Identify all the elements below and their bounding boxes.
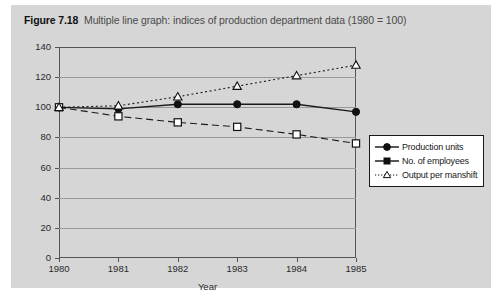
data-point-square [234, 123, 241, 130]
x-tick-label: 1985 [336, 264, 376, 274]
chart-legend: Production units No. of employees Output… [369, 135, 484, 187]
x-tick-mark [118, 258, 119, 262]
data-point-circle [293, 101, 300, 108]
data-point-triangle [174, 93, 182, 100]
x-tick-label: 1984 [277, 264, 317, 274]
y-tick-label: 100 [17, 102, 51, 111]
data-point-square [293, 131, 300, 138]
y-tick-label: 0 [17, 253, 51, 262]
x-tick-label: 1982 [158, 264, 198, 274]
legend-item-production-units: Production units [374, 140, 478, 154]
x-tick-label: 1981 [98, 264, 138, 274]
series-line [59, 107, 356, 143]
x-tick-label: 1983 [217, 264, 257, 274]
legend-label-production-units: Production units [402, 142, 463, 152]
data-point-triangle [233, 82, 241, 89]
x-tick-mark [237, 258, 238, 262]
data-point-triangle [292, 71, 300, 78]
figure-panel: Figure 7.18 Multiple line graph: indices… [11, 5, 491, 288]
series-line [59, 104, 356, 112]
y-tick-label: 140 [17, 42, 51, 51]
y-tick-label: 80 [17, 132, 51, 141]
legend-marker-open-triangle [374, 169, 400, 181]
legend-marker-filled-circle [374, 141, 400, 153]
legend-item-output-per-manshift: Output per manshift [374, 168, 478, 182]
legend-label-output-per-manshift: Output per manshift [402, 170, 477, 180]
legend-label-no-of-employees: No. of employees [402, 156, 469, 166]
data-point-square [115, 113, 122, 120]
x-tick-mark [59, 258, 60, 262]
x-axis-title: Year [59, 281, 356, 292]
series-line [59, 65, 356, 107]
chart-plot-wrapper: 020406080100120140 198019811982198319841… [11, 5, 491, 288]
x-tick-mark [356, 258, 357, 262]
y-tick-label: 20 [17, 223, 51, 232]
data-point-square [174, 119, 181, 126]
legend-marker-filled-square [374, 155, 400, 167]
x-tick-label: 1980 [39, 264, 79, 274]
y-tick-label: 60 [17, 163, 51, 172]
y-tick-label: 120 [17, 72, 51, 81]
data-point-circle [352, 108, 359, 115]
legend-item-no-of-employees: No. of employees [374, 154, 478, 168]
x-tick-mark [178, 258, 179, 262]
data-point-triangle [352, 61, 360, 68]
data-point-triangle [114, 102, 122, 109]
data-point-circle [174, 101, 181, 108]
data-point-square [352, 140, 359, 147]
data-point-circle [234, 101, 241, 108]
y-tick-label: 40 [17, 193, 51, 202]
x-tick-mark [297, 258, 298, 262]
series-layer [59, 47, 356, 258]
